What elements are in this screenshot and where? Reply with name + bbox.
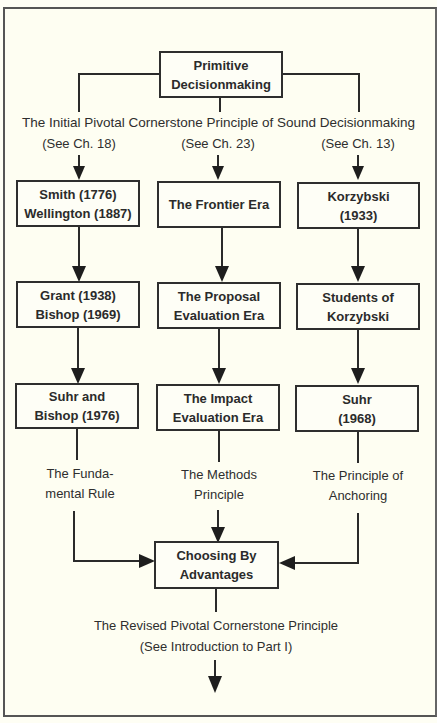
box-label: The Frontier Era [169, 195, 269, 214]
principle-fundamental-rule: The Funda- mental Rule [20, 464, 140, 504]
box-suhr-1968: Suhr (1968) [295, 385, 419, 432]
box-korzybski: Korzybski (1933) [297, 182, 420, 229]
root-box-label: Primitive Decisionmaking [171, 56, 271, 94]
box-suhr-bishop: Suhr and Bishop (1976) [15, 383, 139, 429]
root-box-primitive-decisionmaking: Primitive Decisionmaking [159, 51, 283, 98]
box-label: Korzybski (1933) [327, 187, 389, 225]
column-1-reference: (See Ch. 18) [29, 134, 129, 154]
column-2-reference: (See Ch. 23) [168, 134, 268, 154]
box-label: Suhr (1968) [338, 390, 376, 428]
box-frontier-era: The Frontier Era [157, 181, 281, 228]
connector-lines [0, 0, 437, 723]
box-smith-wellington: Smith (1776) Wellington (1887) [16, 180, 140, 227]
box-impact-evaluation-era: The Impact Evaluation Era [156, 384, 280, 431]
box-label: The Impact Evaluation Era [173, 389, 263, 427]
result-box-label: Choosing By Advantages [176, 546, 256, 584]
box-label: Suhr and Bishop (1976) [34, 387, 119, 425]
box-proposal-evaluation-era: The Proposal Evaluation Era [157, 282, 281, 329]
box-label: The Proposal Evaluation Era [174, 287, 264, 325]
box-label: Grant (1938) Bishop (1969) [35, 286, 120, 324]
box-students-of-korzybski: Students of Korzybski [296, 283, 420, 330]
revised-reference-label: (See Introduction to Part I) [110, 637, 322, 657]
principle-anchoring: The Principle of Anchoring [298, 466, 418, 506]
box-label: Smith (1776) Wellington (1887) [24, 185, 131, 223]
revised-principle-label: The Revised Pivotal Cornerstone Principl… [60, 616, 372, 636]
box-label: Students of Korzybski [322, 288, 394, 326]
principle-methods: The Methods Principle [159, 465, 279, 505]
result-box-choosing-by-advantages: Choosing By Advantages [154, 541, 279, 589]
column-3-reference: (See Ch. 13) [308, 134, 408, 154]
box-grant-bishop: Grant (1938) Bishop (1969) [16, 281, 140, 328]
initial-principle-label: The Initial Pivotal Cornerstone Principl… [5, 113, 432, 133]
